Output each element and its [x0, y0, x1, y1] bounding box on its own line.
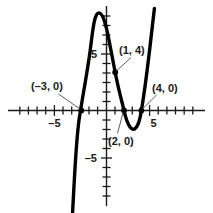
annotation-root-right: (4, 0)	[152, 82, 178, 94]
cubic-function-graph: –5 5 5 –5 (–3, 0) (1, 4) (2, 0) (4, 0)	[0, 0, 213, 213]
marked-points	[78, 69, 144, 113]
leader-line-root-middle	[118, 112, 124, 134]
x-axis-label-negative-five: –5	[48, 117, 60, 129]
leader-line-turning-point	[116, 58, 131, 72]
point-marker-root-middle	[121, 108, 127, 114]
y-axis-label-negative-five: –5	[85, 152, 97, 164]
leader-line-root-left	[59, 94, 81, 109]
annotation-root-left: (–3, 0)	[31, 80, 63, 92]
leader-lines	[59, 58, 157, 134]
annotation-turning-point: (1, 4)	[119, 44, 145, 56]
graph-canvas: –5 5 5 –5 (–3, 0) (1, 4) (2, 0) (4, 0)	[0, 0, 213, 213]
annotation-root-middle: (2, 0)	[108, 135, 134, 147]
x-axis-label-positive-five: 5	[150, 117, 156, 129]
y-axis-label-positive-five: 5	[91, 48, 97, 60]
